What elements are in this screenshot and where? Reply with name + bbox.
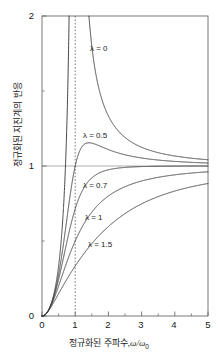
x-tick-label-0: 0 <box>32 319 52 330</box>
x-tick-label-2: 2 <box>98 319 118 330</box>
curve-lambda-4 <box>42 184 208 317</box>
curve-label-lambda-1: λ = 1 <box>85 213 103 222</box>
y-tick-label-1: 1 <box>18 160 34 171</box>
plot-area <box>0 0 218 357</box>
y-tick-label-2: 2 <box>18 10 34 21</box>
x-tick-label-5: 5 <box>198 319 218 330</box>
x-tick-label-4: 4 <box>164 319 184 330</box>
omega-subscript: 0 <box>145 343 149 350</box>
curve-label-lambda-1-5: λ = 1.5 <box>88 240 112 249</box>
curve-label-lambda-0-7: λ = 0.7 <box>83 181 107 190</box>
y-axis-label: 정규화된 지진계의 반응 <box>11 45 24 205</box>
x-tick-label-3: 3 <box>131 319 151 330</box>
curve-lambda-1 <box>42 143 208 316</box>
x-axis-label: 정규화된 주파수,ω/ω0 <box>0 336 218 350</box>
x-axis-label-text: 정규화된 주파수, <box>69 338 130 348</box>
x-tick-label-1: 1 <box>65 319 85 330</box>
curve-label-lambda-0: λ = 0 <box>90 44 108 53</box>
curve-label-lambda-0-5: λ = 0.5 <box>83 131 107 140</box>
omega-ratio-symbol: /ω <box>136 338 145 348</box>
seismometer-response-chart: 정규화된 지진계의 반응 2 1 0 0 1 2 3 4 5 λ = 0 λ =… <box>0 0 218 357</box>
